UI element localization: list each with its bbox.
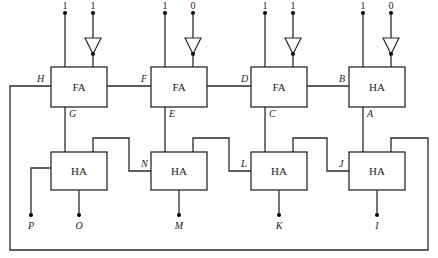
output-label: O: [75, 220, 82, 231]
signal-label: F: [140, 73, 148, 84]
signal-label: N: [140, 158, 149, 169]
output-terminal-dot: [29, 213, 33, 217]
input-value-label: 0: [191, 0, 196, 11]
input-value-label: 1: [63, 0, 68, 11]
output-terminal-dot: [375, 213, 379, 217]
output-terminal-dot: [277, 213, 281, 217]
output-label: I: [374, 220, 379, 231]
signal-label: B: [339, 73, 345, 84]
signal-label: A: [366, 108, 374, 119]
signal-label: J: [339, 158, 344, 169]
block-type-label: FA: [72, 81, 85, 93]
output-wire: [31, 168, 51, 215]
block-type-label: HA: [369, 165, 385, 177]
signal-label: G: [69, 108, 76, 119]
signal-label: C: [269, 108, 276, 119]
signal-label: H: [36, 73, 45, 84]
block-type-label: HA: [369, 81, 385, 93]
adder-circuit-diagram: 11FAGH10FAEF11FACD10HAABHAOHAMNHAKLHAIJP: [0, 0, 438, 258]
output-label: M: [174, 220, 184, 231]
block-type-label: FA: [272, 81, 285, 93]
output-terminal-dot: [77, 213, 81, 217]
block-type-label: HA: [271, 165, 287, 177]
input-value-label: 1: [163, 0, 168, 11]
block-type-label: HA: [71, 165, 87, 177]
input-value-label: 1: [263, 0, 268, 11]
signal-label: L: [240, 158, 247, 169]
input-value-label: 0: [389, 0, 394, 11]
inverter-icon: [285, 38, 301, 54]
input-value-label: 1: [361, 0, 366, 11]
input-value-label: 1: [91, 0, 96, 11]
output-label: K: [275, 220, 284, 231]
block-type-label: FA: [172, 81, 185, 93]
block-type-label: HA: [171, 165, 187, 177]
output-label: P: [27, 220, 34, 231]
inverter-icon: [185, 38, 201, 54]
inverter-icon: [383, 38, 399, 54]
input-value-label: 1: [291, 0, 296, 11]
inverter-icon: [85, 38, 101, 54]
labels: 11FAGH10FAEF11FACD10HAABHAOHAMNHAKLHAIJP: [27, 0, 394, 231]
signal-label: D: [240, 73, 249, 84]
output-terminal-dot: [177, 213, 181, 217]
wires: [10, 11, 428, 250]
signal-label: E: [168, 108, 175, 119]
